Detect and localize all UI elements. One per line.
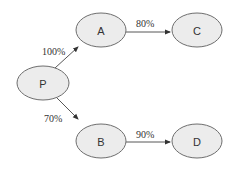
node-c: C <box>172 13 222 47</box>
edge-a-c: 80% <box>126 18 170 32</box>
node-label-b: B <box>97 136 104 148</box>
flow-diagram: 100% 70% 80% 90% P A B C D <box>0 0 237 172</box>
edge-p-b: 70% <box>44 97 78 124</box>
edge-label-b-d: 90% <box>136 129 154 140</box>
edge-label-a-c: 80% <box>136 18 154 29</box>
edge-p-a: 100% <box>42 46 78 68</box>
node-a: A <box>76 13 126 47</box>
edge-b-d: 90% <box>126 129 170 142</box>
edge-label-p-b: 70% <box>44 113 62 124</box>
node-label-p: P <box>39 78 46 90</box>
node-label-d: D <box>193 136 201 148</box>
node-b: B <box>76 124 126 158</box>
node-d: D <box>172 124 222 158</box>
edge-label-p-a: 100% <box>42 46 65 57</box>
node-label-c: C <box>193 25 201 37</box>
node-p: P <box>17 66 69 100</box>
node-label-a: A <box>97 25 105 37</box>
